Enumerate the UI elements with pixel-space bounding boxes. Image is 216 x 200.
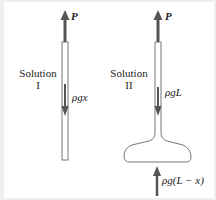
solution-2-label: Solution II: [107, 67, 151, 91]
solution-1-top-force-label: P: [71, 10, 78, 22]
solution-2-top-force-arrow-icon: [154, 10, 163, 42]
solution-2-bottom-force-arrow-icon: [153, 166, 161, 196]
solution-2-bottom-force-label: ρg(L − x): [162, 174, 204, 186]
solution-2-label-line1: Solution: [107, 67, 151, 79]
solution-2-label-line2: II: [107, 79, 151, 91]
diagram-figure: [0, 0, 216, 200]
solution-2-top-force-label: P: [165, 10, 172, 22]
solution-1-inner-force-label: ρgx: [72, 91, 88, 103]
solution-1-label: Solution I: [16, 67, 60, 91]
solution-2-inner-force-label: ρgL: [165, 86, 182, 98]
solution-1-label-line2: I: [16, 79, 60, 91]
solution-1-label-line1: Solution: [16, 67, 60, 79]
solution-1-top-force-arrow-icon: [61, 10, 70, 42]
